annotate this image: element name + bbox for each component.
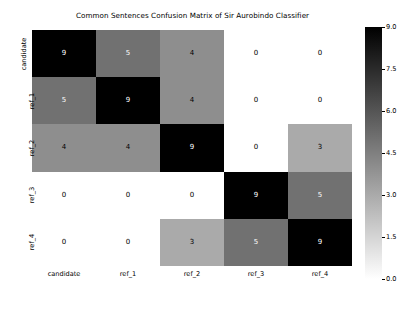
heatmap-cell-value: 9 <box>254 192 258 199</box>
heatmap-cell: 4 <box>96 124 160 171</box>
colorbar: 0.01.53.04.56.07.59.0 <box>365 27 413 279</box>
heatmap-cell: 3 <box>288 124 352 171</box>
x-axis-tick-ref_2: ref_2 <box>160 270 224 284</box>
colorbar-tick-label: 9.0 <box>386 24 397 31</box>
y-axis-tick-wrap: ref_1 <box>8 77 41 124</box>
heatmap-cell-value: 9 <box>190 144 194 151</box>
heatmap-cell: 0 <box>96 172 160 219</box>
figure-canvas: Common Sentences Confusion Matrix of Sir… <box>0 0 413 309</box>
heatmap-cell-value: 0 <box>318 97 322 104</box>
colorbar-tick-mark <box>382 237 385 238</box>
y-axis-tick-ref_3: ref_3 <box>29 187 37 203</box>
heatmap-cell-value: 4 <box>126 144 130 151</box>
heatmap-cell: 9 <box>32 30 96 77</box>
heatmap-cell: 0 <box>224 30 288 77</box>
heatmap-cell-value: 0 <box>126 239 130 246</box>
heatmap-cell: 0 <box>160 172 224 219</box>
heatmap-cell: 9 <box>224 172 288 219</box>
x-axis-tick-ref_3: ref_3 <box>224 270 288 284</box>
colorbar-tick-mark <box>382 111 385 112</box>
heatmap-cell: 4 <box>160 77 224 124</box>
heatmap-cell-value: 0 <box>62 239 66 246</box>
heatmap-cell: 0 <box>288 77 352 124</box>
x-axis-tick-ref_1: ref_1 <box>96 270 160 284</box>
heatmap-cell-value: 0 <box>254 97 258 104</box>
heatmap-cell: 9 <box>288 219 352 266</box>
chart-title: Common Sentences Confusion Matrix of Sir… <box>0 11 385 20</box>
heatmap-cell-value: 4 <box>62 144 66 151</box>
heatmap-cell: 9 <box>96 77 160 124</box>
colorbar-tick-label: 7.5 <box>386 66 397 73</box>
heatmap-cell-value: 4 <box>190 97 194 104</box>
x-axis-tick-ref_4: ref_4 <box>288 270 352 284</box>
colorbar-tick-mark <box>382 279 385 280</box>
heatmap-cell-value: 0 <box>254 144 258 151</box>
y-axis-tick-ref_4: ref_4 <box>29 234 37 250</box>
heatmap-cell: 5 <box>32 77 96 124</box>
confusion-matrix-heatmap: 9540059400449030009500359 <box>32 30 352 266</box>
heatmap-cell-value: 9 <box>62 50 66 57</box>
heatmap-cell: 0 <box>224 77 288 124</box>
heatmap-cell: 5 <box>288 172 352 219</box>
heatmap-cell: 3 <box>160 219 224 266</box>
heatmap-cell: 0 <box>288 30 352 77</box>
colorbar-tick-labels: 0.01.53.04.56.07.59.0 <box>382 27 413 279</box>
y-axis-tick-labels: candidateref_1ref_2ref_3ref_4 <box>8 30 30 266</box>
colorbar-tick-label: 4.5 <box>386 150 397 157</box>
heatmap-cell-value: 3 <box>190 239 194 246</box>
colorbar-gradient <box>365 27 382 279</box>
heatmap-cell-value: 5 <box>126 50 130 57</box>
heatmap-cell: 0 <box>32 219 96 266</box>
heatmap-cell-value: 9 <box>126 97 130 104</box>
heatmap-cell-value: 5 <box>62 97 66 104</box>
heatmap-cell: 0 <box>32 172 96 219</box>
heatmap-cell-value: 0 <box>190 192 194 199</box>
heatmap-cell-value: 0 <box>62 192 66 199</box>
heatmap-cell: 5 <box>96 30 160 77</box>
y-axis-tick-candidate: candidate <box>20 37 28 70</box>
heatmap-cell-value: 4 <box>190 50 194 57</box>
x-axis-tick-labels: candidateref_1ref_2ref_3ref_4 <box>32 270 352 284</box>
heatmap-cell-value: 9 <box>318 239 322 246</box>
heatmap-cell-value: 0 <box>318 50 322 57</box>
colorbar-tick-label: 1.5 <box>386 234 397 241</box>
heatmap-cell: 5 <box>224 219 288 266</box>
y-axis-tick-wrap: ref_3 <box>8 172 41 219</box>
colorbar-tick-mark <box>382 27 385 28</box>
heatmap-cell: 4 <box>32 124 96 171</box>
heatmap-cell: 0 <box>224 124 288 171</box>
heatmap-cell-value: 0 <box>126 192 130 199</box>
colorbar-tick-mark <box>382 195 385 196</box>
y-axis-tick-ref_2: ref_2 <box>29 140 37 156</box>
x-axis-tick-candidate: candidate <box>32 270 96 284</box>
heatmap-cell: 4 <box>160 30 224 77</box>
y-axis-tick-wrap: ref_2 <box>8 124 41 171</box>
colorbar-tick-label: 0.0 <box>386 276 397 283</box>
colorbar-tick-mark <box>382 69 385 70</box>
heatmap-cell-value: 5 <box>318 192 322 199</box>
colorbar-tick-mark <box>382 153 385 154</box>
heatmap-cell-value: 3 <box>318 144 322 151</box>
y-axis-tick-ref_1: ref_1 <box>29 93 37 109</box>
heatmap-cell: 9 <box>160 124 224 171</box>
colorbar-tick-label: 6.0 <box>386 108 397 115</box>
heatmap-cell-value: 5 <box>254 239 258 246</box>
colorbar-tick-label: 3.0 <box>386 192 397 199</box>
y-axis-tick-wrap: candidate <box>8 30 41 77</box>
heatmap-cell: 0 <box>96 219 160 266</box>
y-axis-tick-wrap: ref_4 <box>8 219 41 266</box>
heatmap-cell-value: 0 <box>254 50 258 57</box>
